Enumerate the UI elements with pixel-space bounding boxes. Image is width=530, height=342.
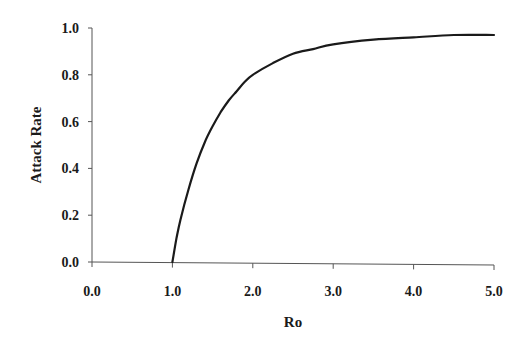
x-tick-label: 1.0 (164, 284, 182, 299)
y-tick-label: 0.2 (62, 208, 80, 223)
x-tick-label: 2.0 (244, 284, 262, 299)
y-tick-label: 0.6 (62, 115, 80, 130)
x-tick-label: 0.0 (83, 284, 101, 299)
y-tick-label: 1.0 (62, 21, 80, 36)
y-tick-label: 0.4 (62, 161, 80, 176)
y-tick-label: 0.8 (62, 68, 80, 83)
x-tick-label: 3.0 (324, 284, 342, 299)
x-axis-line (92, 262, 494, 265)
attack-rate-chart: 0.00.20.40.60.81.00.01.02.03.04.05.0 Ro … (0, 0, 530, 342)
x-axis-title: Ro (284, 314, 302, 330)
x-tick-label: 4.0 (405, 284, 423, 299)
attack-rate-curve (172, 35, 494, 262)
y-tick-label: 0.0 (62, 255, 80, 270)
y-axis-title: Attack Rate (28, 106, 44, 183)
plot-area: 0.00.20.40.60.81.00.01.02.03.04.05.0 (62, 21, 503, 299)
x-tick-label: 5.0 (485, 284, 503, 299)
